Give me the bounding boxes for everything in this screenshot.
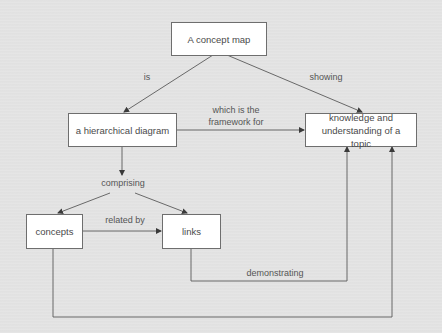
node-concept-map-label: A concept map (188, 33, 251, 46)
edge-concepts-knowledge (53, 147, 392, 317)
node-knowledge: knowledge and understanding of a topic (305, 113, 417, 147)
node-concepts: concepts (26, 214, 83, 249)
node-knowledge-label: knowledge and understanding of a topic (314, 111, 408, 150)
edge-comprising-links (135, 193, 187, 213)
edge-comprising-concepts (58, 193, 110, 213)
node-links: links (162, 214, 221, 249)
edge-label-related-by: related by (100, 214, 150, 226)
diagram-canvas: A concept map a hierarchical diagram kno… (0, 0, 442, 333)
node-hierarchical-diagram-label: a hierarchical diagram (76, 124, 169, 137)
node-concept-map: A concept map (171, 22, 267, 56)
node-hierarchical-diagram: a hierarchical diagram (68, 113, 177, 147)
node-links-label: links (182, 225, 201, 238)
edge-label-framework: which is the framework for (200, 104, 272, 128)
edge-label-is: is (140, 71, 154, 83)
edge-label-showing: showing (305, 71, 347, 83)
edge-label-demonstrating: demonstrating (240, 267, 310, 279)
edge-label-comprising: comprising (98, 177, 148, 189)
node-concepts-label: concepts (35, 225, 73, 238)
